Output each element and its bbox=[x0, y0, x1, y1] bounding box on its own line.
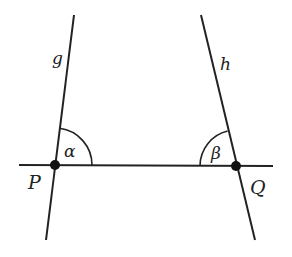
line-g-label: g bbox=[52, 48, 63, 68]
line-h-label: h bbox=[220, 54, 231, 74]
point-p-dot bbox=[50, 160, 60, 170]
point-p-label: P bbox=[27, 171, 42, 193]
diagram-canvas: g h P Q α β bbox=[0, 0, 292, 257]
point-q-label: Q bbox=[250, 176, 266, 198]
line-h bbox=[201, 15, 255, 240]
angle-beta-label: β bbox=[210, 143, 221, 163]
point-q-dot bbox=[231, 161, 241, 171]
angle-alpha-label: α bbox=[64, 141, 76, 161]
